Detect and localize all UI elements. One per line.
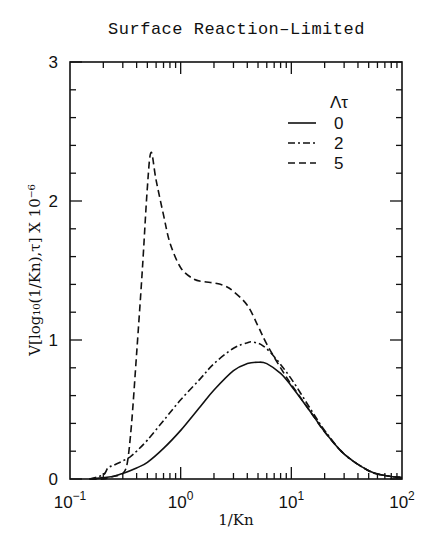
x-tick-label: 10−1 bbox=[54, 489, 87, 512]
plot-frame bbox=[70, 62, 402, 479]
x-tick-labels: 10−1100101102 bbox=[54, 489, 415, 512]
legend: Λτ 025 bbox=[288, 93, 348, 173]
y-tick-label: 1 bbox=[49, 331, 58, 350]
y-tick-label: 2 bbox=[49, 192, 58, 211]
legend-title: Λτ bbox=[330, 93, 348, 112]
x-axis-label: 1/Kn bbox=[218, 511, 254, 529]
axis-ticks bbox=[70, 62, 402, 479]
y-tick-label: 3 bbox=[49, 53, 58, 72]
x-tick-label: 100 bbox=[168, 489, 194, 512]
chart-canvas: 10−1100101102 0123 1/Kn V[log₁₀(1/Kn),τ]… bbox=[0, 0, 445, 558]
x-tick-label: 102 bbox=[389, 489, 415, 512]
legend-label: 2 bbox=[334, 134, 343, 153]
curve-dashed bbox=[90, 152, 403, 479]
legend-label: 0 bbox=[334, 114, 343, 133]
y-tick-label: 0 bbox=[49, 470, 58, 489]
x-tick-label: 101 bbox=[279, 489, 305, 512]
y-tick-labels: 0123 bbox=[49, 53, 58, 489]
data-curves bbox=[90, 152, 403, 479]
legend-label: 5 bbox=[334, 154, 343, 173]
y-axis-label: V[log₁₀(1/Kn),τ] X 10⁻⁶ bbox=[26, 184, 44, 356]
